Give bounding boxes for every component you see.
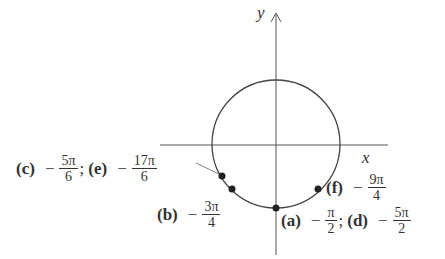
point-a-d (273, 205, 280, 212)
label-b-tag: (b) (157, 205, 178, 225)
label-f: (f) − 9π4 (326, 172, 388, 203)
label-e-tag: (e) (88, 159, 107, 179)
fraction-f: 9π4 (368, 172, 386, 203)
label-f-tag: (f) (326, 178, 343, 198)
fraction-c: 5π6 (59, 153, 77, 184)
point-b (229, 186, 236, 193)
fraction-e: 17π6 (132, 153, 157, 184)
x-axis-label: x (362, 148, 370, 168)
y-axis-label: y (257, 3, 265, 23)
label-a-tag: (a) (281, 211, 301, 231)
fraction-a: π2 (325, 205, 336, 236)
label-b: (b) − 3π4 (157, 199, 222, 230)
label-c-tag: (c) (16, 159, 35, 179)
label-c-e: (c) − 5π6 ; (e) − 17π6 (16, 153, 159, 184)
fraction-b: 3π4 (202, 199, 220, 230)
point-f (315, 186, 322, 193)
label-a-d: (a) − π2 ; (d) − 5π2 (281, 205, 413, 236)
label-d-tag: (d) (347, 211, 368, 231)
point-c-e (219, 173, 226, 180)
fraction-d: 5π2 (393, 205, 411, 236)
